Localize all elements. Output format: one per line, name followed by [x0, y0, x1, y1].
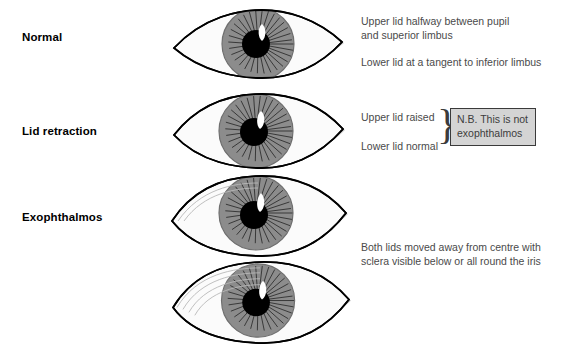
note-line: Both lids moved away from centre with [361, 240, 541, 254]
row-label-exophthalmos: Exophthalmos [22, 211, 102, 223]
pupil [242, 30, 270, 58]
note-line: Lower lid normal [361, 139, 438, 153]
diagram-canvas: Normal [0, 0, 575, 345]
note-retraction-lower: Lower lid normal [361, 139, 438, 153]
note-line: Upper lid halfway between pupil [361, 14, 509, 28]
note-line: and superior limbus [361, 28, 509, 42]
iris-group [222, 8, 294, 80]
eye-normal [170, 8, 350, 80]
eye-exophthalmos [168, 175, 354, 259]
eye-exophthalmos-severe [168, 260, 358, 345]
eye-lid-retraction [170, 93, 350, 171]
row-label-normal: Normal [22, 31, 62, 43]
row-label-lid-retraction: Lid retraction [22, 125, 97, 137]
nb-callout: N.B. This is not exophthalmos [450, 108, 536, 146]
nb-line: exophthalmos [457, 127, 529, 141]
note-normal-lower: Lower lid at a tangent to inferior limbu… [361, 55, 541, 69]
note-exophthalmos: Both lids moved away from centre with sc… [361, 240, 541, 268]
note-line: sclera visible below or all round the ir… [361, 254, 541, 268]
note-retraction-upper: Upper lid raised [361, 110, 435, 124]
note-line: Lower lid at a tangent to inferior limbu… [361, 55, 541, 69]
nb-line: N.B. This is not [457, 113, 529, 127]
iris-group [219, 94, 293, 168]
note-normal-upper: Upper lid halfway between pupil and supe… [361, 14, 509, 42]
note-line: Upper lid raised [361, 110, 435, 124]
